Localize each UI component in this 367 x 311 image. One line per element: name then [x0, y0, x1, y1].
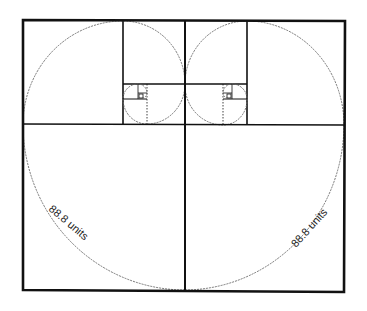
left-tiny-square	[139, 94, 143, 98]
right-tiny-square	[227, 94, 231, 98]
left-panel: 88.8 units	[23, 21, 185, 290]
golden-spiral-diagram: 88.8 units 88.8 units	[0, 0, 367, 311]
right-arc-label: 88.8 units	[289, 205, 330, 249]
right-panel: 88.8 units	[185, 21, 344, 290]
right-spiral	[185, 21, 344, 290]
left-spiral	[23, 21, 185, 290]
left-arc-label: 88.8 units	[47, 202, 92, 242]
